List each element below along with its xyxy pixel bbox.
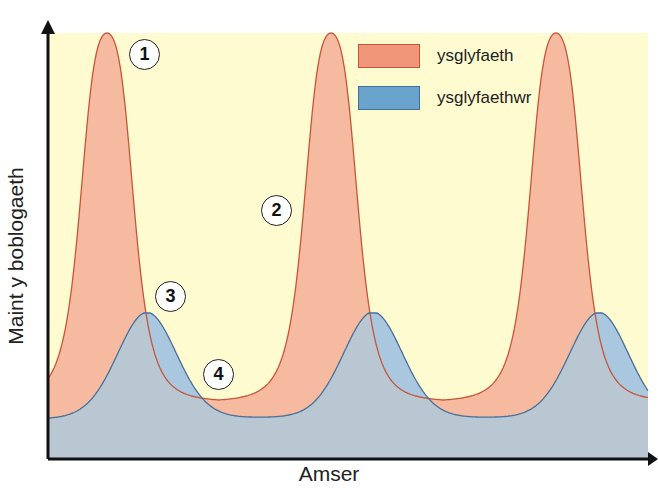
marker-3: 3 [155,281,186,312]
y-axis-arrow-icon [41,20,55,34]
y-axis-label: Maint y boblogaeth [4,146,28,366]
legend-item-prey: ysglyfaeth [358,44,514,68]
marker-2: 2 [261,195,292,226]
legend-swatch-predator [358,86,420,110]
legend-label-prey: ysglyfaeth [437,46,514,66]
x-axis-label: Amser [0,462,658,486]
legend-label-predator: ysglyfaethwr [437,88,531,108]
marker-1: 1 [129,39,160,70]
legend-swatch-prey [358,44,420,68]
legend-item-predator: ysglyfaethwr [358,86,531,110]
marker-4: 4 [203,359,234,390]
chart-canvas [0,0,658,490]
